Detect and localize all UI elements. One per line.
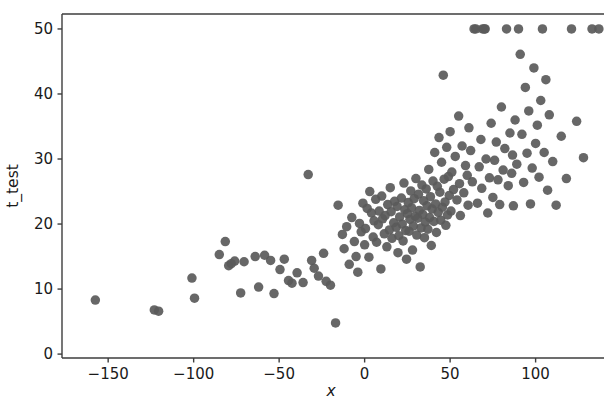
scatter-point: [393, 248, 403, 258]
scatter-point: [455, 179, 465, 189]
y-tick-label: 10: [34, 280, 53, 298]
scatter-point: [434, 133, 444, 143]
x-tick-label: 50: [441, 365, 460, 383]
scatter-point: [526, 199, 536, 209]
x-tick-label: −50: [263, 365, 295, 383]
scatter-point: [483, 208, 493, 218]
scatter-point: [437, 158, 447, 168]
scatter-point: [442, 143, 452, 153]
scatter-point: [446, 206, 456, 216]
scatter-point: [314, 271, 324, 281]
scatter-point: [524, 106, 534, 116]
scatter-point: [466, 146, 476, 156]
scatter-point: [344, 260, 354, 270]
scatter-point: [360, 240, 370, 250]
scatter-point: [415, 262, 425, 272]
scatter-point: [350, 237, 360, 247]
scatter-point: [408, 245, 418, 255]
scatter-point: [543, 185, 553, 195]
scatter-point: [377, 191, 387, 201]
scatter-point: [512, 159, 522, 169]
scatter-point: [333, 200, 343, 210]
scatter-point: [353, 267, 363, 277]
scatter-point: [481, 154, 491, 164]
x-axis-label: x: [325, 382, 336, 400]
scatter-point: [457, 141, 467, 151]
scatter-point: [519, 178, 529, 188]
x-tick-label: 100: [521, 365, 550, 383]
scatter-point: [266, 256, 276, 266]
scatter-point: [551, 200, 561, 210]
scatter-point: [430, 148, 440, 158]
scatter-point: [498, 165, 508, 175]
scatter-point: [190, 293, 200, 303]
scatter-point: [269, 289, 279, 299]
scatter-point: [365, 187, 375, 197]
plot-canvas: −150−100−50050100 01020304050 x t_test: [0, 0, 604, 404]
scatter-point: [464, 123, 474, 133]
scatter-point: [567, 24, 577, 34]
scatter-point: [507, 169, 517, 179]
scatter-point: [534, 172, 544, 182]
scatter-point: [522, 148, 532, 158]
scatter-point: [339, 244, 349, 254]
scatter-point: [382, 242, 392, 252]
scatter-point: [154, 306, 164, 316]
scatter-point: [509, 201, 519, 211]
scatter-point: [292, 268, 302, 278]
scatter-point: [439, 70, 449, 80]
scatter-point: [364, 252, 374, 262]
scatter-point: [454, 111, 464, 121]
scatter-point: [538, 24, 548, 34]
scatter-point: [402, 254, 412, 264]
scatter-point: [527, 163, 537, 173]
x-tick-label: −150: [88, 365, 129, 383]
scatter-point: [536, 96, 546, 106]
scatter-point: [468, 177, 478, 187]
scatter-point: [250, 252, 260, 262]
scatter-point: [280, 254, 290, 264]
scatter-point: [548, 157, 558, 167]
scatter-point: [497, 102, 507, 112]
scatter-point: [539, 148, 549, 158]
scatter-point: [515, 50, 525, 60]
scatter-point: [493, 175, 503, 185]
scatter-point: [529, 63, 539, 73]
scatter-point: [521, 83, 531, 93]
scatter-point: [531, 139, 541, 149]
scatter-point: [91, 295, 101, 305]
scatter-point: [517, 130, 527, 140]
scatter-point: [508, 150, 518, 160]
x-tick-label: 0: [360, 365, 370, 383]
scatter-point: [500, 144, 510, 154]
scatter-point: [376, 264, 386, 274]
scatter-point: [541, 75, 551, 85]
scatter-point: [474, 162, 484, 172]
scatter-point: [447, 167, 457, 177]
scatter-point: [331, 318, 341, 328]
scatter-point: [445, 127, 455, 137]
scatter-point: [533, 120, 543, 130]
scatter-point: [557, 132, 567, 142]
scatter-point: [298, 278, 308, 288]
scatter-point: [239, 257, 249, 267]
y-tick-label: 30: [34, 150, 53, 168]
scatter-point: [435, 187, 445, 197]
scatter-point: [326, 280, 336, 290]
scatter-point: [221, 237, 231, 247]
scatter-point: [230, 256, 240, 266]
scatter-point: [275, 265, 285, 275]
scatter-point: [427, 241, 437, 251]
y-axis-label: t_test: [4, 164, 23, 208]
scatter-point: [420, 233, 430, 243]
scatter-point: [432, 228, 442, 238]
scatter-point: [236, 288, 246, 298]
scatter-point: [476, 135, 486, 145]
scatter-point: [342, 222, 352, 232]
y-tick-label: 50: [34, 20, 53, 38]
y-tick-label: 20: [34, 215, 53, 233]
scatter-point: [347, 213, 357, 223]
scatter-point: [441, 221, 451, 231]
y-tick-label: 40: [34, 85, 53, 103]
scatter-point: [361, 224, 371, 234]
